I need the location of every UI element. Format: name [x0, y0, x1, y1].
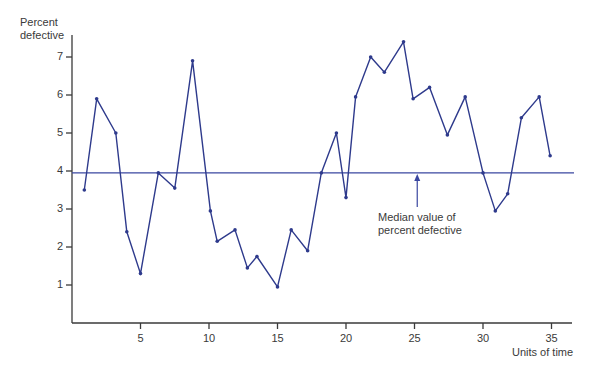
y-tick-label: 1 [49, 278, 63, 290]
y-axis-label-line1: Percent [20, 16, 58, 29]
data-point [83, 188, 87, 192]
x-tick-label: 35 [540, 332, 564, 344]
y-tick-label: 7 [49, 50, 63, 62]
data-point [157, 171, 161, 175]
data-point [537, 95, 541, 99]
data-point [173, 186, 177, 190]
data-point [139, 272, 143, 276]
y-axis-label-line2: defective [20, 29, 64, 42]
data-point [402, 40, 406, 44]
x-tick-label: 5 [129, 332, 153, 344]
line-chart [0, 0, 595, 376]
data-point [335, 131, 339, 135]
data-point [446, 133, 450, 137]
data-point [320, 171, 324, 175]
data-point [344, 196, 348, 200]
series-line [84, 42, 550, 287]
data-point [354, 95, 358, 99]
x-tick-label: 30 [471, 332, 495, 344]
data-point [276, 285, 280, 289]
y-tick-label: 6 [49, 88, 63, 100]
data-point [506, 192, 510, 196]
data-point [463, 95, 467, 99]
data-point [289, 228, 293, 232]
data-point [520, 116, 524, 120]
data-point [369, 55, 373, 59]
y-tick-label: 3 [49, 202, 63, 214]
data-point [411, 97, 415, 101]
data-point [481, 171, 485, 175]
y-tick-label: 2 [49, 240, 63, 252]
arrow-head-icon [414, 174, 420, 181]
data-point [383, 70, 387, 74]
x-tick-label: 25 [403, 332, 427, 344]
x-tick-label: 20 [334, 332, 358, 344]
data-point [246, 266, 250, 270]
annotation-line1: Median value of [378, 211, 456, 224]
data-point [255, 255, 259, 259]
data-point [494, 209, 498, 213]
data-point [95, 97, 99, 101]
data-point [114, 131, 118, 135]
data-point [306, 249, 310, 253]
annotation-line2: percent defective [378, 224, 462, 237]
x-axis-label: Units of time [512, 346, 573, 359]
data-point [428, 86, 432, 90]
x-tick-label: 15 [266, 332, 290, 344]
data-point [233, 228, 237, 232]
data-point [209, 209, 213, 213]
x-tick-label: 10 [197, 332, 221, 344]
data-point [191, 59, 195, 63]
y-tick-label: 4 [49, 164, 63, 176]
data-point [215, 240, 219, 244]
data-point [548, 154, 552, 158]
data-point [125, 230, 129, 234]
y-tick-label: 5 [49, 126, 63, 138]
